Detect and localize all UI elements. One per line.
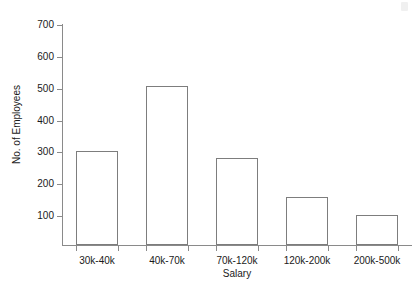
x-axis-tick [258,246,259,251]
y-axis-tick-label-text: 700 [20,20,54,30]
y-axis-tick-label: 700 [16,20,54,30]
y-axis-tick-label: 300 [16,147,54,157]
x-axis-tick-label: 40k-70k [127,255,207,266]
x-axis-tick [286,246,287,251]
y-axis-tick [57,25,62,26]
y-axis-tick-label: 400 [16,116,54,126]
bar-120k-200k [286,197,328,245]
y-axis-tick-label-text: 200 [20,179,54,189]
y-axis-tick-label-text: 500 [20,84,54,94]
bar-70k-120k [216,158,258,245]
x-axis-tick-label: 30k-40k [57,255,137,266]
y-axis-tick-label: 600 [16,52,54,62]
x-axis-tick-label: 120k-200k [267,255,347,266]
x-axis-title: Salary [62,268,412,279]
x-axis-tick [76,246,77,251]
y-axis-tick [57,89,62,90]
x-axis-tick [146,246,147,251]
x-axis-line [62,245,412,246]
y-axis-title: No. of Employees [11,60,22,190]
x-axis-tick-label: 200k-500k [337,255,417,266]
x-axis-tick [118,246,119,251]
y-axis-line [62,24,63,246]
y-axis-tick [57,57,62,58]
caption-remnant-text [30,0,330,2]
x-axis-tick [328,246,329,251]
y-axis-tick-label-text: 300 [20,147,54,157]
y-axis-tick-label: 200 [16,179,54,189]
y-axis-tick [57,152,62,153]
x-axis-tick [356,246,357,251]
y-axis-tick-label: 100 [16,211,54,221]
y-axis-tick [57,184,62,185]
x-axis-tick-label: 70k-120k [197,255,277,266]
bar-chart-figure: 100200300400500600700 30k-40k40k-70k70k-… [0,0,420,293]
y-axis-tick-label-text: 600 [20,52,54,62]
y-axis-tick-label-text: 400 [20,116,54,126]
y-axis-tick [57,121,62,122]
y-axis-tick-label: 500 [16,84,54,94]
bar-40k-70k [146,86,188,245]
page-artifact-speck [401,2,408,11]
y-axis-tick-label-text: 100 [20,211,54,221]
bar-200k-500k [356,215,398,245]
y-axis-tick [57,216,62,217]
bar-30k-40k [76,151,118,245]
x-axis-tick [398,246,399,251]
x-axis-tick [188,246,189,251]
x-axis-tick [216,246,217,251]
